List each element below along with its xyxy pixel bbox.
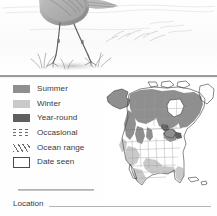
diagonal-hatch-swatch-icon [13,144,30,152]
legend-label-occasional: Occasional [37,129,78,137]
location-label: Location [13,200,44,208]
location-write-in-line[interactable] [49,206,211,207]
legend-label-winter: Winter [37,100,61,108]
year-round-swatch-icon [13,114,30,122]
summer-swatch-icon [13,85,30,93]
legend-item-ocean-range: Ocean range [13,140,105,155]
legend-item-summer: Summer [13,82,105,97]
bird-pencil-illustration [0,0,217,76]
empty-box-swatch-icon[interactable] [13,157,30,168]
legend-item-date-seen[interactable]: Date seen [13,155,105,170]
field-guide-page: Summer Winter Year-round Occasional Ocea… [0,0,217,216]
legend-item-year-round: Year-round [13,111,105,126]
winter-swatch-icon [13,100,30,108]
legend-label-ocean-range: Ocean range [37,144,84,152]
range-map-legend: Summer Winter Year-round Occasional Ocea… [13,82,105,170]
dotted-bars-swatch-icon [13,129,30,137]
legend-item-winter: Winter [13,97,105,112]
legend-label-date-seen: Date seen [37,158,74,166]
legend-label-summer: Summer [37,85,68,93]
legend-bottom-rule [18,189,94,191]
legend-label-year-round: Year-round [37,114,77,122]
section-divider [0,75,217,78]
legend-item-occasional: Occasional [13,126,105,141]
north-america-range-map [104,80,216,202]
